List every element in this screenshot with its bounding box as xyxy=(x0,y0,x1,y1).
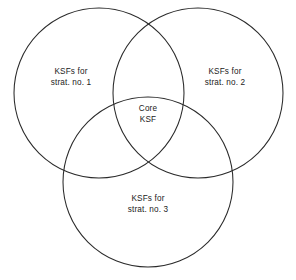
venn-diagram: KSFs for strat. no. 1 KSFs for strat. no… xyxy=(0,0,296,280)
label-core-line-1: Core xyxy=(114,104,182,115)
venn-circle-set-2 xyxy=(113,8,283,178)
label-set-3: KSFs for strat. no. 3 xyxy=(106,194,190,215)
label-core-line-2: KSF xyxy=(114,115,182,126)
label-core-intersection: Core KSF xyxy=(114,104,182,125)
venn-diagram-canvas xyxy=(0,0,296,280)
label-set-1-line-1: KSFs for xyxy=(29,67,113,78)
label-set-3-line-1: KSFs for xyxy=(106,194,190,205)
label-set-1-line-2: strat. no. 1 xyxy=(29,78,113,89)
label-set-2: KSFs for strat. no. 2 xyxy=(183,67,267,88)
venn-circle-set-1 xyxy=(14,8,184,178)
label-set-2-line-2: strat. no. 2 xyxy=(183,78,267,89)
label-set-1: KSFs for strat. no. 1 xyxy=(29,67,113,88)
label-set-2-line-1: KSFs for xyxy=(183,67,267,78)
label-set-3-line-2: strat. no. 3 xyxy=(106,205,190,216)
